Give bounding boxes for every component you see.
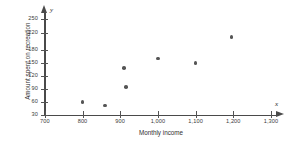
data-point	[156, 57, 160, 61]
data-point	[194, 61, 198, 65]
x-tick-label: 700	[28, 119, 62, 125]
y-axis-arrowhead-icon	[41, 5, 47, 13]
y-axis-title-host: Amount spent on recreation	[12, 0, 22, 120]
y-tick-90	[41, 89, 48, 90]
plot-area: y x 306090120150180220250 7008009001,000…	[0, 0, 292, 145]
data-point	[230, 35, 234, 39]
y-tick-120	[41, 76, 48, 77]
y-tick-60	[41, 102, 48, 103]
x-axis-arrowhead-icon	[276, 111, 284, 117]
y-axis-symbol: y	[50, 7, 53, 14]
y-axis-line	[44, 12, 46, 116]
data-point	[81, 100, 85, 104]
x-axis-line	[44, 115, 278, 117]
y-tick-250	[41, 19, 48, 20]
x-tick-label: 1,200	[216, 119, 250, 125]
y-tick-220	[41, 33, 48, 34]
y-tick-150	[41, 63, 48, 64]
data-point	[124, 85, 128, 89]
x-tick-label: 1,000	[141, 119, 175, 125]
x-axis-symbol: x	[275, 101, 278, 108]
y-tick-180	[41, 50, 48, 51]
x-tick-1300	[271, 111, 272, 118]
scatter-plot-figure: y x 306090120150180220250 7008009001,000…	[0, 0, 292, 145]
data-point	[122, 66, 126, 70]
y-axis-title: Amount spent on recreation	[25, 5, 31, 117]
x-tick-900	[120, 111, 121, 118]
x-tick-700	[45, 111, 46, 118]
x-tick-1100	[196, 111, 197, 118]
x-tick-label: 1,100	[179, 119, 213, 125]
x-tick-800	[83, 111, 84, 118]
x-tick-1200	[233, 111, 234, 118]
x-axis-title: Monthly income	[44, 130, 278, 136]
x-tick-1000	[158, 111, 159, 118]
x-tick-label: 1,300	[254, 119, 288, 125]
x-tick-label: 800	[66, 119, 100, 125]
data-point	[103, 104, 107, 108]
x-tick-label: 900	[103, 119, 137, 125]
